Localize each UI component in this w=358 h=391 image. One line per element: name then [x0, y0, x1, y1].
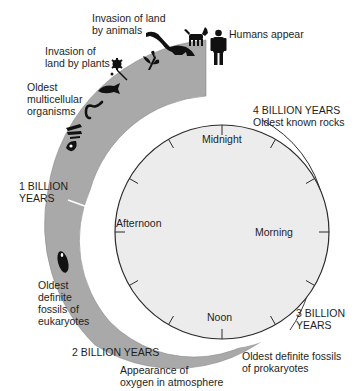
label-multicellular-line1: Oldest	[27, 81, 57, 93]
clock-label-morning: Morning	[255, 226, 293, 238]
label-eukaryotes-line3: fossils of	[38, 303, 79, 315]
label-animals-line2: by animals	[92, 24, 142, 36]
label-multicellular-line2: multicellular	[27, 93, 82, 105]
label-prokaryotes-line2: of prokaryotes	[242, 362, 309, 374]
label-1-billion-line1: 1 BILLION	[19, 180, 68, 192]
label-oxygen-line1: Appearance of	[120, 364, 188, 376]
label-prokaryotes-line1: Oldest definite fossils	[242, 350, 341, 362]
label-animals-line1: Invasion of land	[92, 12, 166, 24]
label-eukaryotes-line1: Oldest	[38, 279, 68, 291]
clock-label-midnight: Midnight	[202, 133, 242, 145]
earth-history-clock-diagram: Midnight Morning Noon Afternoon 4 BILLIO…	[0, 0, 358, 391]
label-3-billion-line2: YEARS	[296, 319, 332, 331]
clock-label-afternoon: Afternoon	[116, 217, 162, 229]
clock-label-noon: Noon	[207, 311, 232, 323]
label-3-billion-line1: 3 BILLION	[296, 307, 345, 319]
label-4-billion-years: 4 BILLION YEARS	[253, 104, 340, 116]
label-oldest-known-rocks: Oldest known rocks	[253, 116, 345, 128]
label-eukaryotes-line4: eukaryotes	[38, 315, 89, 327]
label-plants-line2: land by plants	[45, 57, 110, 69]
human-silhouette-icon	[211, 30, 227, 65]
label-eukaryotes-line2: definite	[38, 291, 72, 303]
label-humans-appear: Humans appear	[229, 28, 304, 40]
label-2-billion-years: 2 BILLION YEARS	[72, 346, 159, 358]
label-plants-line1: Invasion of	[45, 45, 96, 57]
label-oxygen-line2: oxygen in atmosphere	[120, 376, 223, 388]
label-1-billion-line2: YEARS	[19, 192, 55, 204]
billion-2-divider	[170, 340, 174, 353]
label-multicellular-line3: organisms	[27, 105, 75, 117]
